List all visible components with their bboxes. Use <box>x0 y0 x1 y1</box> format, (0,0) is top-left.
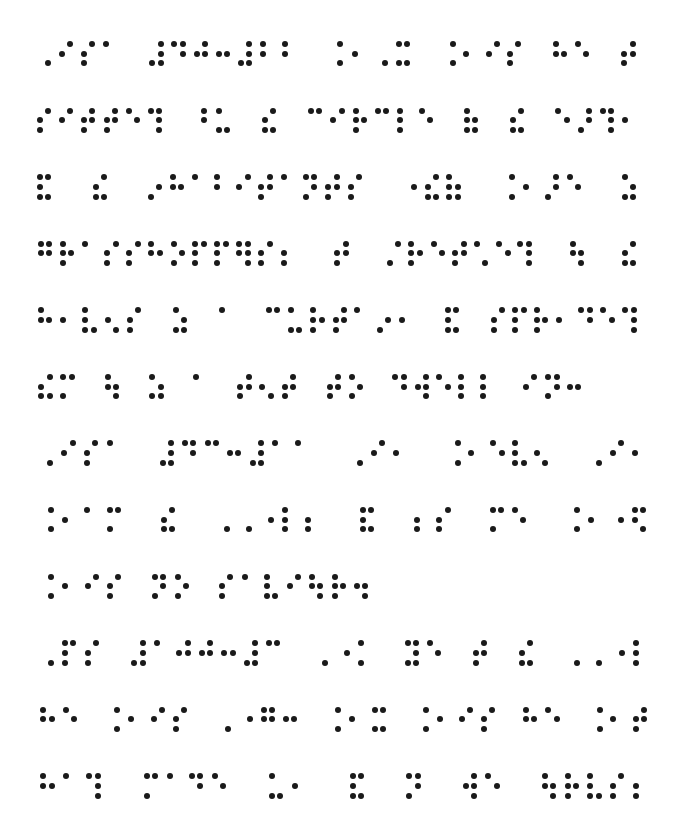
braille-cell <box>610 507 625 533</box>
braille-dot-1 <box>170 174 176 180</box>
braille-dot-1 <box>63 707 69 713</box>
braille-cell <box>396 41 411 67</box>
braille-dot-1 <box>405 640 411 646</box>
braille-dot-2 <box>632 450 638 456</box>
braille-dot-2 <box>236 184 242 190</box>
braille-dot-6 <box>380 726 386 732</box>
braille-dot-2 <box>352 51 358 57</box>
braille-dot-4 <box>115 574 121 580</box>
braille-dot-3 <box>622 194 628 200</box>
braille-dot-5 <box>201 117 207 123</box>
braille-dot-2 <box>610 783 616 789</box>
braille-cell <box>192 174 207 200</box>
braille-dot-2 <box>350 783 356 789</box>
braille-dot-2 <box>414 517 420 523</box>
braille-dot-1 <box>303 174 309 180</box>
braille-dot-3 <box>353 127 359 133</box>
braille-dot-1 <box>397 108 403 114</box>
braille-dot-1 <box>545 707 551 713</box>
braille-dot-5 <box>435 650 441 656</box>
braille-dot-6 <box>450 60 456 66</box>
braille-dot-2 <box>85 583 91 589</box>
braille-dot-6 <box>640 526 646 532</box>
braille-dot-1 <box>37 174 43 180</box>
braille-dot-1 <box>555 108 561 114</box>
braille-cell <box>431 241 446 267</box>
braille-dot-6 <box>45 60 51 66</box>
braille-dot-1 <box>105 374 111 380</box>
braille-dot-4 <box>169 507 175 513</box>
braille-cell <box>81 41 96 67</box>
braille-dot-6 <box>527 660 533 666</box>
braille-dot-6 <box>631 327 637 333</box>
braille-dot-5 <box>140 650 146 656</box>
braille-dot-2 <box>261 716 267 722</box>
braille-dot-3 <box>408 260 414 266</box>
braille-dot-1 <box>406 773 412 779</box>
braille-cell <box>354 574 369 600</box>
braille-dot-2 <box>216 51 222 57</box>
braille-cell <box>82 307 97 333</box>
braille-dot-1 <box>517 241 523 247</box>
braille-dot-5 <box>168 450 174 456</box>
braille-dot-1 <box>63 773 69 779</box>
braille-dot-1 <box>107 507 113 513</box>
braille-dot-2 <box>309 583 315 589</box>
braille-dot-6 <box>542 460 548 466</box>
braille-dot-4 <box>608 108 614 114</box>
braille-cell <box>622 241 637 267</box>
braille-cell <box>287 574 302 600</box>
braille-dot-2 <box>512 450 518 456</box>
braille-dot-3 <box>250 460 256 466</box>
braille-dot-2 <box>486 51 492 57</box>
braille-dot-1 <box>219 307 225 313</box>
braille-dot-1 <box>107 440 113 446</box>
braille-dot-6 <box>168 460 174 466</box>
braille-dot-3 <box>82 327 88 333</box>
braille-dot-4 <box>527 640 533 646</box>
braille-cell <box>93 174 108 200</box>
braille-cell <box>148 108 163 134</box>
braille-cell <box>61 440 76 466</box>
braille-dot-3 <box>396 60 402 66</box>
braille-dot-2 <box>353 117 359 123</box>
braille-dot-5 <box>291 716 297 722</box>
braille-dot-2 <box>437 716 443 722</box>
braille-cell <box>107 507 122 533</box>
braille-cell <box>199 640 214 666</box>
braille-dot-2 <box>192 250 198 256</box>
braille-dot-5 <box>89 117 95 123</box>
braille-cell <box>588 440 603 466</box>
braille-dot-2 <box>62 650 68 656</box>
braille-cell <box>237 374 252 400</box>
braille-dot-2 <box>237 384 243 390</box>
braille-dot-1 <box>567 174 573 180</box>
braille-cell <box>358 640 373 666</box>
braille-cell <box>131 640 146 666</box>
braille-cell <box>281 241 296 267</box>
braille-dot-1 <box>534 307 540 313</box>
braille-dot-1 <box>282 507 288 513</box>
braille-dot-5 <box>341 317 347 323</box>
braille-dot-4 <box>245 174 251 180</box>
braille-dot-2 <box>105 317 111 323</box>
braille-cell <box>414 707 429 733</box>
braille-dot-2 <box>334 250 340 256</box>
braille-cell <box>587 773 602 799</box>
braille-cell <box>458 374 473 400</box>
braille-dot-2 <box>93 184 99 190</box>
braille-dot-4 <box>553 174 559 180</box>
braille-dot-6 <box>423 726 429 732</box>
braille-dot-3 <box>333 327 339 333</box>
braille-dot-1 <box>358 640 364 646</box>
braille-cell <box>406 773 421 799</box>
braille-cell <box>86 773 101 799</box>
braille-dot-4 <box>274 307 280 313</box>
braille-dot-6 <box>550 793 556 799</box>
braille-cell <box>212 773 227 799</box>
braille-dot-6 <box>322 660 328 666</box>
braille-dot-4 <box>202 41 208 47</box>
braille-cell <box>523 174 538 200</box>
braille-dot-3 <box>358 660 364 666</box>
braille-dot-1 <box>436 374 442 380</box>
